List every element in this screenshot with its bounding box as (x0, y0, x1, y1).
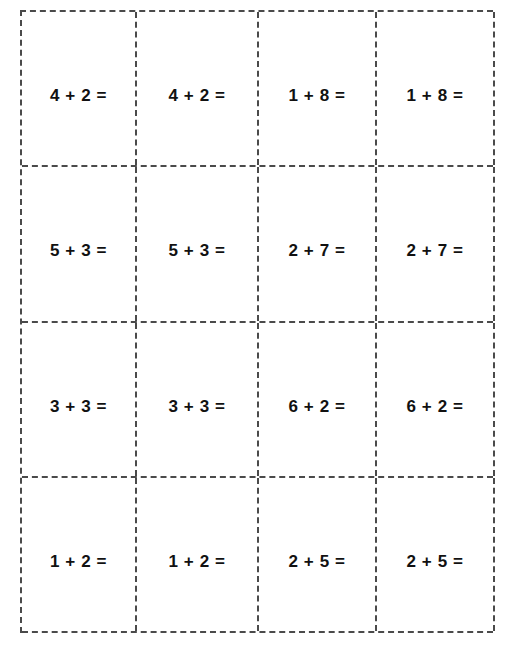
flashcard-worksheet-grid: 4 + 2 = 4 + 2 = 1 + 8 = 1 + 8 = 5 + 3 = … (20, 10, 493, 633)
addition-problem-text: 2 + 5 = (406, 553, 463, 570)
addition-problem-text: 6 + 2 = (406, 398, 463, 415)
flashcard-cell[interactable]: 3 + 3 = (22, 323, 137, 476)
flashcard-cell[interactable]: 4 + 2 = (22, 12, 137, 165)
addition-problem-text: 3 + 3 = (168, 398, 225, 415)
flashcard-cell[interactable]: 1 + 2 = (137, 478, 259, 631)
addition-problem-text: 6 + 2 = (288, 398, 345, 415)
flashcard-cell[interactable]: 6 + 2 = (377, 323, 495, 476)
flashcard-cell[interactable]: 6 + 2 = (259, 323, 377, 476)
flashcard-cell[interactable]: 2 + 7 = (377, 167, 495, 320)
card-row: 5 + 3 = 5 + 3 = 2 + 7 = 2 + 7 = (22, 167, 493, 322)
addition-problem-text: 1 + 2 = (168, 553, 225, 570)
addition-problem-text: 5 + 3 = (168, 242, 225, 259)
card-row: 4 + 2 = 4 + 2 = 1 + 8 = 1 + 8 = (22, 12, 493, 167)
flashcard-cell[interactable]: 2 + 5 = (377, 478, 495, 631)
flashcard-cell[interactable]: 5 + 3 = (22, 167, 137, 320)
addition-problem-text: 1 + 2 = (50, 553, 107, 570)
addition-problem-text: 2 + 7 = (406, 242, 463, 259)
addition-problem-text: 2 + 7 = (288, 242, 345, 259)
addition-problem-text: 1 + 8 = (288, 87, 345, 104)
flashcard-cell[interactable]: 1 + 8 = (377, 12, 495, 165)
addition-problem-text: 4 + 2 = (50, 87, 107, 104)
flashcard-cell[interactable]: 1 + 2 = (22, 478, 137, 631)
addition-problem-text: 4 + 2 = (168, 87, 225, 104)
addition-problem-text: 5 + 3 = (50, 242, 107, 259)
card-row: 3 + 3 = 3 + 3 = 6 + 2 = 6 + 2 = (22, 323, 493, 478)
flashcard-cell[interactable]: 4 + 2 = (137, 12, 259, 165)
addition-problem-text: 1 + 8 = (406, 87, 463, 104)
flashcard-cell[interactable]: 2 + 5 = (259, 478, 377, 631)
addition-problem-text: 2 + 5 = (288, 553, 345, 570)
flashcard-cell[interactable]: 2 + 7 = (259, 167, 377, 320)
card-row: 1 + 2 = 1 + 2 = 2 + 5 = 2 + 5 = (22, 478, 493, 633)
flashcard-cell[interactable]: 3 + 3 = (137, 323, 259, 476)
flashcard-cell[interactable]: 5 + 3 = (137, 167, 259, 320)
flashcard-cell[interactable]: 1 + 8 = (259, 12, 377, 165)
addition-problem-text: 3 + 3 = (50, 398, 107, 415)
